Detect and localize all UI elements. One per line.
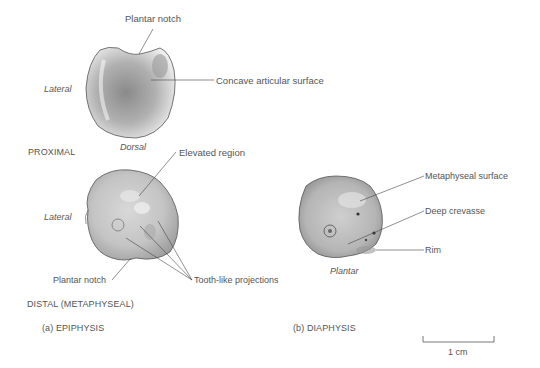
diaphysis-drawing [299, 176, 383, 258]
label-rim: Rim [425, 246, 441, 255]
scale-bar-label: 1 cm [448, 348, 468, 357]
leader-dist-plantar-notch [112, 258, 131, 280]
label-plantar: Plantar [330, 267, 359, 276]
label-tooth-like-projections: Tooth-like projections [194, 276, 279, 285]
label-dist-plantar-notch: Plantar notch [53, 276, 106, 285]
label-prox-plantar-notch: Plantar notch [125, 14, 181, 24]
section-label-proximal: PROXIMAL [28, 148, 75, 157]
label-metaphyseal-surface: Metaphyseal surface [425, 172, 508, 181]
label-deep-crevasse: Deep crevasse [425, 207, 485, 216]
proximal-epiphysis-drawing [86, 47, 175, 138]
scale-bar [423, 336, 494, 342]
distal-bone-outline [87, 170, 178, 260]
diaphysis-bone-outline [299, 176, 383, 258]
label-elevated-region: Elevated region [179, 148, 245, 158]
section-label-distal: DISTAL (METAPHYSEAL) [27, 300, 134, 309]
label-dist-lateral: Lateral [44, 213, 72, 222]
figure-artwork [0, 0, 540, 368]
distal-epiphysis-drawing [85, 170, 178, 260]
caption-epiphysis: (a) EPIPHYSIS [42, 324, 104, 333]
label-prox-lateral: Lateral [44, 85, 72, 94]
leader-prox-plantar-notch [139, 29, 153, 54]
label-concave-articular-surface: Concave articular surface [216, 76, 324, 86]
label-prox-dorsal: Dorsal [120, 143, 146, 152]
caption-diaphysis: (b) DIAPHYSIS [293, 324, 356, 333]
